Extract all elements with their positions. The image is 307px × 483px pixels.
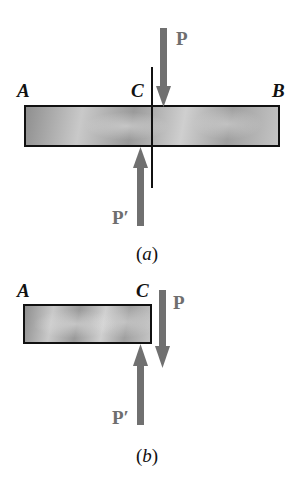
arrow-p-prime-up-icon bbox=[133, 344, 148, 425]
caption-b: (b) bbox=[136, 446, 158, 465]
arrow-p-down-icon bbox=[155, 290, 170, 368]
force-label-p: P bbox=[173, 293, 185, 312]
figure-b-graphics bbox=[0, 0, 307, 483]
force-label-p-prime: P′ bbox=[112, 408, 129, 427]
